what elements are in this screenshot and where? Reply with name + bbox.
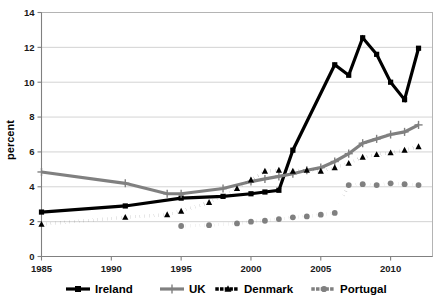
data-point-marker: [262, 168, 268, 174]
data-point-marker: [290, 168, 296, 174]
data-point-marker: [374, 182, 380, 188]
data-point-marker: [178, 223, 184, 229]
chart-canvas: 02468101214 198519901995200020052010 per…: [0, 0, 443, 305]
data-point-marker: [374, 52, 379, 57]
y-axis-title: percent: [4, 120, 16, 160]
x-tick-label: 2005: [310, 263, 332, 274]
data-point-marker: [346, 182, 352, 188]
data-point-marker: [290, 148, 295, 153]
legend-item-portugal[interactable]: Portugal: [313, 283, 387, 295]
data-point-marker: [415, 143, 421, 149]
data-point-marker: [332, 210, 338, 216]
y-tick-label: 4: [29, 181, 35, 192]
data-point-marker: [416, 46, 421, 51]
data-point-marker: [360, 154, 366, 160]
data-point-marker: [388, 80, 393, 85]
data-point-marker: [178, 208, 184, 214]
data-point-marker: [290, 214, 296, 220]
data-point-marker: [122, 214, 128, 220]
data-point-marker: [346, 73, 351, 78]
y-tick-label: 14: [24, 7, 35, 18]
y-tick-label: 0: [29, 251, 34, 262]
data-point-marker: [75, 286, 81, 292]
y-tick-label: 10: [24, 77, 35, 88]
data-point-marker: [346, 160, 352, 166]
x-tick-label: 2010: [380, 263, 401, 274]
x-tick-labels: 198519901995200020052010: [31, 257, 401, 274]
legend-item-uk[interactable]: UK: [160, 283, 206, 295]
data-point-marker: [248, 191, 253, 196]
data-point-marker: [402, 181, 408, 187]
y-tick-labels: 02468101214: [24, 7, 42, 262]
y-tick-label: 6: [29, 146, 34, 157]
y-tick-label: 2: [29, 216, 34, 227]
legend-label: Portugal: [340, 283, 387, 295]
data-point-marker: [276, 188, 281, 193]
data-point-marker: [321, 286, 327, 292]
data-point-marker: [262, 218, 268, 224]
legend-item-ireland[interactable]: Ireland: [66, 283, 133, 295]
data-point-marker: [248, 219, 254, 225]
data-point-marker: [234, 220, 240, 226]
data-point-marker: [332, 62, 337, 67]
data-point-marker: [262, 189, 267, 194]
legend-label: Ireland: [95, 283, 133, 295]
data-point-marker: [360, 35, 365, 40]
data-point-marker: [416, 182, 422, 188]
legend-label: UK: [189, 283, 206, 295]
data-point-marker: [276, 216, 282, 222]
data-point-marker: [276, 167, 282, 173]
data-point-marker: [332, 164, 338, 170]
y-tick-label: 8: [29, 111, 34, 122]
data-point-marker: [164, 211, 170, 217]
data-point-marker: [318, 212, 324, 218]
data-point-marker: [39, 209, 44, 214]
x-tick-label: 1985: [31, 263, 53, 274]
x-tick-label: 2000: [240, 263, 261, 274]
data-point-marker: [360, 181, 366, 187]
data-point-marker: [206, 199, 212, 205]
data-series: [37, 35, 422, 229]
data-point-marker: [220, 194, 225, 199]
chart-legend: IrelandUKDenmarkPortugal: [66, 283, 387, 295]
data-point-marker: [388, 180, 394, 186]
data-point-marker: [401, 147, 407, 153]
line-chart: 02468101214 198519901995200020052010 per…: [0, 0, 443, 305]
legend-label: Denmark: [244, 283, 294, 295]
data-point-marker: [304, 214, 310, 220]
data-point-marker: [123, 203, 128, 208]
y-tick-label: 12: [24, 42, 35, 53]
data-point-marker: [248, 176, 254, 182]
x-tick-label: 1990: [101, 263, 122, 274]
x-tick-label: 1995: [171, 263, 193, 274]
data-point-marker: [402, 97, 407, 102]
legend-item-denmark[interactable]: Denmark: [217, 283, 294, 295]
data-point-marker: [388, 149, 394, 155]
data-point-marker: [206, 222, 212, 228]
